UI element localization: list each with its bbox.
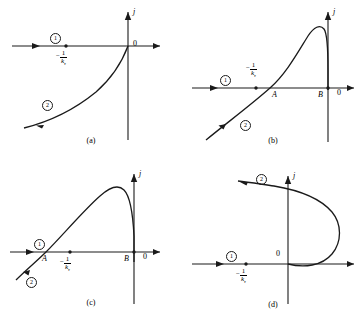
branch-two-label-d: 2 xyxy=(256,174,267,185)
branch-one-label-b: 1 xyxy=(220,75,231,86)
tick-label-a: − 1 kτ xyxy=(60,50,67,66)
origin-label-c: 0 xyxy=(143,253,147,261)
j-axis-label-b: j xyxy=(333,8,335,16)
x-axis-arrow-b xyxy=(347,85,354,91)
tick-denominator-b: kτ xyxy=(250,70,257,78)
branch-one-label-a: 1 xyxy=(50,33,61,44)
origin-label-d: 0 xyxy=(276,250,280,258)
tick-minus-a: − xyxy=(56,53,60,60)
tick-minus-b: − xyxy=(246,65,250,72)
caption-b: (b) xyxy=(182,136,364,145)
tick-minus-d: − xyxy=(236,271,240,278)
tick-subscript-d: τ xyxy=(244,279,246,284)
y-axis-arrow-c xyxy=(131,174,137,182)
y-axis-arrow-a xyxy=(125,12,131,20)
figure-panel-grid: 0 j 1 2 − 1 kτ (a) j xyxy=(0,0,364,319)
j-axis-label-a: j xyxy=(133,8,135,16)
branch-two-arrow-a xyxy=(36,125,44,129)
origin-label-b: 0 xyxy=(337,89,341,97)
branch-one-arrow-a xyxy=(32,43,40,49)
branch-one-arrow-c xyxy=(26,249,34,255)
panel-c: j 0 A B 1 2 − 1 kτ (c) xyxy=(0,160,182,319)
branch-two-label-c: 2 xyxy=(26,277,37,288)
branch-two-label-a: 2 xyxy=(42,100,53,111)
point-b-label-c: B xyxy=(124,255,129,263)
tick-denominator-c: kτ xyxy=(64,264,71,272)
branch-one-arrow-b xyxy=(210,85,218,91)
tick-dot-d xyxy=(244,262,247,265)
y-axis-arrow-b xyxy=(325,12,331,20)
curve-d xyxy=(238,181,340,266)
panel-a: 0 j 1 2 − 1 kτ (a) xyxy=(0,0,182,159)
branch-two-arrow-d xyxy=(240,182,248,186)
point-b-label-b: B xyxy=(318,91,323,99)
branch-one-arrow-d xyxy=(216,261,224,267)
point-b-dot-c xyxy=(132,250,135,253)
tick-label-b: − 1 kτ xyxy=(250,62,257,78)
tick-dot-a xyxy=(64,44,67,47)
point-a-label-b: A xyxy=(272,91,277,99)
y-axis-arrow-d xyxy=(285,176,291,184)
point-a-label-c: A xyxy=(42,255,47,263)
x-axis-arrow-d xyxy=(347,261,354,267)
panel-b: j 0 A B 1 2 − 1 kτ (b) xyxy=(182,0,364,159)
tick-dot-b xyxy=(254,86,257,89)
tick-denominator-a: kτ xyxy=(60,58,67,66)
branch-one-label-d: 1 xyxy=(226,251,237,262)
point-b-dot-b xyxy=(326,86,329,89)
tick-minus-c: − xyxy=(60,259,64,266)
j-axis-label-c: j xyxy=(139,170,141,178)
caption-d: (d) xyxy=(182,300,364,309)
panel-d: j 0 1 2 − 1 kτ (d) xyxy=(182,160,364,319)
origin-label-a: 0 xyxy=(133,40,137,48)
tick-dot-c xyxy=(68,250,71,253)
tick-label-c: − 1 kτ xyxy=(64,256,71,272)
tick-denominator-d: kτ xyxy=(240,276,247,284)
caption-a: (a) xyxy=(0,136,182,145)
j-axis-label-d: j xyxy=(293,172,295,180)
tick-subscript-b: τ xyxy=(254,73,256,78)
branch-one-label-c: 1 xyxy=(34,239,45,250)
tick-subscript-c: τ xyxy=(68,267,70,272)
x-axis-arrow-c xyxy=(153,249,160,255)
branch-two-label-b: 2 xyxy=(240,120,251,131)
tick-label-d: − 1 kτ xyxy=(240,268,247,284)
caption-c: (c) xyxy=(0,298,182,307)
tick-subscript-a: τ xyxy=(64,61,66,66)
curve-a xyxy=(24,46,128,128)
x-axis-arrow-a xyxy=(153,43,160,49)
curve-c xyxy=(16,187,134,280)
